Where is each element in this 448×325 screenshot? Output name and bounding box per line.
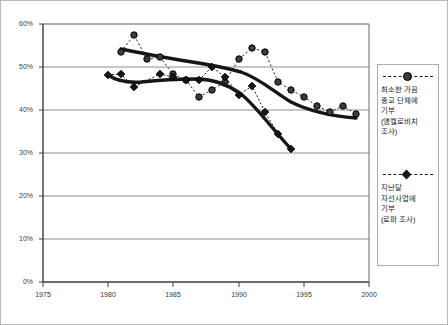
xtick-label-1990: 1990: [219, 291, 259, 298]
circle-marker-icon: [381, 71, 437, 82]
ytick-label-60: 60%: [9, 20, 33, 27]
xtick-label-1975: 1975: [23, 291, 63, 298]
diamond-marker-icon: [381, 169, 437, 180]
ytick-label-0: 0%: [9, 278, 33, 285]
xtick-label-1980: 1980: [88, 291, 128, 298]
xtick-label-2000: 2000: [349, 291, 389, 298]
legend-label-1: 최소한 가끔 종교 단체에 기부 (얭켈로비치 조사): [381, 85, 437, 138]
x-axis-ticks: [43, 282, 369, 287]
legend-entry-2: 지난달 자선사업에 기부 (로퍼 조사): [378, 169, 440, 225]
legend-label-2: 지난달 자선사업에 기부 (로퍼 조사): [381, 183, 437, 225]
legend-entry-1: 최소한 가끔 종교 단체에 기부 (얭켈로비치 조사): [378, 71, 440, 138]
series-2-markers: [104, 63, 295, 153]
chart-legend: 최소한 가끔 종교 단체에 기부 (얭켈로비치 조사) 지난달 자선사업에 기부…: [377, 64, 439, 266]
ytick-label-10: 10%: [9, 235, 33, 242]
xtick-label-1985: 1985: [153, 291, 193, 298]
ytick-label-40: 40%: [9, 106, 33, 113]
ytick-label-30: 30%: [9, 149, 33, 156]
ytick-label-50: 50%: [9, 63, 33, 70]
series-1-markers: [118, 32, 359, 117]
xtick-label-1995: 1995: [284, 291, 324, 298]
chart-page: 60% 50% 40% 30% 20% 10% 0% 1975 1980 198…: [0, 0, 448, 325]
grid-lines: [43, 24, 369, 239]
ytick-label-20: 20%: [9, 192, 33, 199]
